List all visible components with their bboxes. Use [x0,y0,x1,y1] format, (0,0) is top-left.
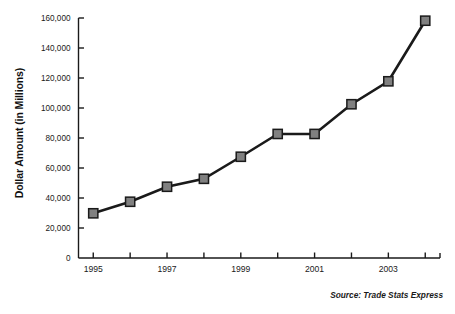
data-point-marker [347,100,356,109]
x-tick-label: 2001 [305,264,324,274]
data-point-marker [89,209,98,218]
y-axis-ticks: 020,00040,00060,00080,000100,000120,0001… [41,14,84,263]
line-chart-plot: 020,00040,00060,00080,000100,000120,0001… [0,0,455,314]
chart-figure: Dollar Amount (in Millions) 020,00040,00… [0,0,455,314]
x-tick-label: 1999 [231,264,250,274]
y-tick-label: 0 [66,254,71,263]
data-point-marker [421,16,430,25]
y-tick-label: 40,000 [45,194,70,203]
data-point-marker [199,174,208,183]
source-note: Source: Trade Stats Express [330,290,443,300]
data-point-marker [384,77,393,86]
y-tick-label: 80,000 [45,134,70,143]
x-axis-ticks: 19951997199920012003 [84,253,426,275]
data-point-marker [310,129,319,138]
y-tick-label: 140,000 [41,44,71,53]
axis-spines [79,18,441,258]
x-tick-label: 1995 [84,264,103,274]
data-point-marker [162,182,171,191]
y-tick-label: 120,000 [41,74,71,83]
y-tick-label: 160,000 [41,14,71,23]
data-line [93,21,425,214]
y-tick-label: 20,000 [45,224,70,233]
x-tick-label: 1997 [157,264,176,274]
data-point-marker [126,197,135,206]
data-point-marker [236,152,245,161]
y-tick-label: 100,000 [41,104,71,113]
y-tick-label: 60,000 [45,164,70,173]
data-point-marker [273,129,282,138]
data-markers [89,16,430,218]
x-tick-label: 2003 [379,264,398,274]
